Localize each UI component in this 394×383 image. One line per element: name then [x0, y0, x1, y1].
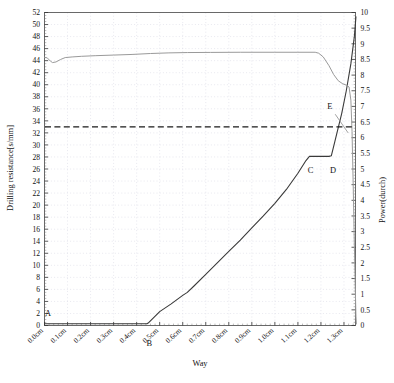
- y-tick-label: 42: [32, 68, 40, 77]
- drilling-resistance-chart: 0246810121416182022242628303234363840424…: [0, 0, 394, 383]
- annotation-b: B: [147, 339, 153, 348]
- y-tick-label: 2: [36, 309, 40, 318]
- y-tick-label: 34: [32, 117, 40, 126]
- y-tick-label: 10: [32, 261, 40, 270]
- y-tick-label: 52: [32, 8, 40, 17]
- y2-tick-label: 1: [361, 290, 365, 299]
- y2-tick-label: 2: [361, 259, 365, 268]
- y2-tick-label: 6: [361, 133, 365, 142]
- y-tick-label: 16: [32, 225, 40, 234]
- y2-tick-label: 8.5: [361, 55, 371, 64]
- y2-tick-label: 0: [361, 321, 365, 330]
- y-tick-label: 4: [36, 297, 40, 306]
- y-tick-label: 26: [32, 165, 40, 174]
- y-tick-label: 46: [32, 44, 40, 53]
- y2-tick-label: 1.5: [361, 274, 371, 283]
- y2-tick-label: 3: [361, 227, 365, 236]
- y-tick-label: 30: [32, 141, 40, 150]
- x-axis-title: Way: [192, 359, 208, 368]
- y-tick-label: 44: [32, 56, 40, 65]
- y2-tick-label: 10: [361, 8, 369, 17]
- y2-tick-label: 2.5: [361, 243, 371, 252]
- y2-tick-label: 5: [361, 165, 365, 174]
- y-tick-label: 50: [32, 20, 40, 29]
- y2-tick-label: 9: [361, 40, 365, 49]
- y-tick-label: 20: [32, 201, 40, 210]
- annotation-e: E: [327, 102, 332, 111]
- chart-svg: 0246810121416182022242628303234363840424…: [0, 0, 394, 383]
- y-tick-label: 12: [32, 249, 40, 258]
- annotation-c: C: [308, 166, 314, 175]
- y-tick-label: 40: [32, 80, 40, 89]
- y-tick-label: 28: [32, 153, 40, 162]
- annotation-a: A: [45, 309, 51, 318]
- y2-tick-label: 4: [361, 196, 365, 205]
- y2-tick-label: 6.5: [361, 118, 371, 127]
- annotation-d: D: [330, 166, 336, 175]
- y-tick-label: 36: [32, 105, 40, 114]
- y2-tick-label: 5.5: [361, 149, 371, 158]
- y-tick-label: 32: [32, 129, 40, 138]
- y-axis-title: Drilling resistance[s/mm]: [6, 125, 15, 211]
- y-tick-label: 38: [32, 92, 40, 101]
- y-tick-label: 48: [32, 32, 40, 41]
- y-tick-label: 22: [32, 189, 40, 198]
- y2-tick-label: 7: [361, 102, 365, 111]
- y2-tick-label: 3.5: [361, 212, 371, 221]
- y2-tick-label: 7.5: [361, 86, 371, 95]
- y2-tick-label: 8: [361, 71, 365, 80]
- y2-tick-label: 0.5: [361, 306, 371, 315]
- y2-tick-label: 9.5: [361, 24, 371, 33]
- y-tick-label: 14: [32, 237, 40, 246]
- y-tick-label: 18: [32, 213, 40, 222]
- y2-tick-label: 4.5: [361, 180, 371, 189]
- y-tick-label: 8: [36, 273, 40, 282]
- y-tick-label: 24: [32, 177, 40, 186]
- y2-axis-title: Power(durch): [378, 177, 387, 223]
- y-tick-label: 6: [36, 285, 40, 294]
